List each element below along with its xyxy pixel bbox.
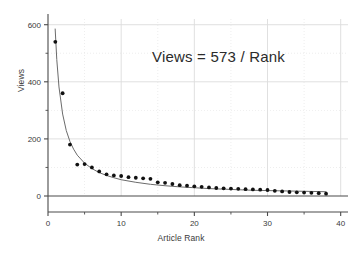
svg-text:0: 0	[46, 219, 51, 228]
svg-text:20: 20	[190, 219, 199, 228]
svg-text:400: 400	[28, 78, 42, 87]
y-axis-title: Views	[16, 69, 26, 92]
vertical-gridlines	[85, 19, 341, 196]
plot-area: 0200400600010203040	[0, 0, 362, 263]
x-axis-title: Article Rank	[0, 233, 362, 243]
equation-annotation: Views = 573 / Rank	[152, 48, 285, 65]
chart-figure: 0200400600010203040 Views Article Rank V…	[0, 0, 362, 263]
svg-text:40: 40	[336, 219, 345, 228]
svg-text:10: 10	[117, 219, 126, 228]
svg-text:0: 0	[37, 192, 42, 201]
horizontal-gridlines	[48, 25, 348, 168]
svg-text:600: 600	[28, 21, 42, 30]
svg-text:200: 200	[28, 135, 42, 144]
svg-text:30: 30	[263, 219, 272, 228]
axis-lines	[48, 14, 348, 212]
